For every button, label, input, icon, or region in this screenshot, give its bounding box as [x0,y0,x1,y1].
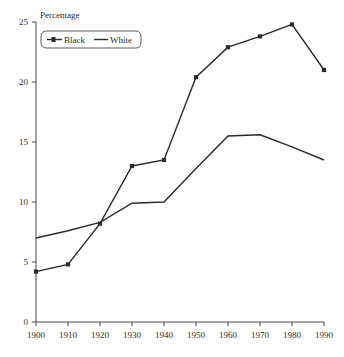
x-tick-label: 1970 [251,330,270,340]
y-axis-title: Percentage [40,10,79,20]
y-tick-label: 5 [24,257,29,267]
chart-container: 0510152025 19001910192019301940195019601… [0,0,344,357]
y-tick-label: 10 [19,197,29,207]
y-tick-label: 0 [24,317,29,327]
data-point [290,22,294,26]
legend-black-marker [52,37,56,42]
data-point [162,158,166,162]
x-tick-label: 1960 [219,330,238,340]
x-tick-label: 1980 [283,330,302,340]
x-tick-label: 1950 [187,330,206,340]
data-point [130,164,134,168]
x-tick-label: 1900 [27,330,46,340]
legend-white-label: White [110,35,132,45]
x-tick-label: 1990 [315,330,334,340]
data-point [194,75,198,79]
x-tick-label: 1930 [123,330,142,340]
line-chart: 0510152025 19001910192019301940195019601… [0,0,344,357]
y-tick-label: 20 [19,77,29,87]
chart-legend: Black White [41,31,141,48]
data-point [226,45,230,49]
data-point [258,34,262,38]
x-tick-label: 1940 [155,330,174,340]
x-tick-label: 1920 [91,330,110,340]
y-tick-label: 25 [19,17,29,27]
x-tick-label: 1910 [59,330,78,340]
data-point [34,270,38,274]
legend-black-label: Black [64,35,85,45]
data-point [322,68,326,72]
y-tick-label: 15 [19,137,29,147]
data-point [66,262,70,266]
chart-background [0,0,344,357]
